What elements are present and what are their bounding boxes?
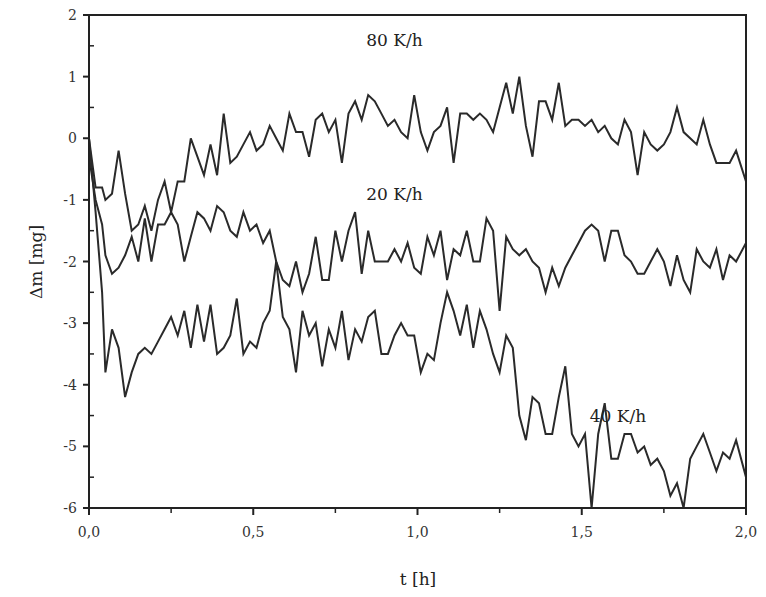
y-tick-label: -2 bbox=[63, 254, 77, 270]
x-axis-title: t [h] bbox=[400, 569, 436, 589]
y-tick-label: 1 bbox=[68, 69, 77, 85]
y-tick-label: -6 bbox=[63, 500, 77, 516]
y-tick-label: 0 bbox=[68, 130, 77, 146]
y-tick-label: -5 bbox=[63, 438, 77, 454]
series-label: 20 K/h bbox=[366, 184, 422, 204]
series-layer: 80 K/h20 K/h40 K/h bbox=[89, 30, 746, 508]
x-tick-label: 0,5 bbox=[242, 524, 264, 540]
axes-layer: 210-1-2-3-4-5-60,00,51,01,52,0 bbox=[63, 7, 757, 540]
y-tick-label: -4 bbox=[63, 377, 77, 393]
series-line-80-k-h bbox=[89, 77, 746, 231]
y-axis-title: Δm [mg] bbox=[26, 225, 46, 299]
x-tick-label: 1,5 bbox=[571, 524, 593, 540]
y-tick-label: -3 bbox=[63, 315, 77, 331]
series-label: 40 K/h bbox=[590, 406, 646, 426]
chart: 80 K/h20 K/h40 K/h 210-1-2-3-4-5-60,00,5… bbox=[0, 0, 766, 597]
x-tick-label: 0,0 bbox=[78, 524, 100, 540]
y-tick-label: 2 bbox=[68, 7, 77, 23]
y-tick-label: -1 bbox=[63, 192, 77, 208]
series-line-20-k-h bbox=[89, 157, 746, 311]
plot-frame bbox=[89, 15, 746, 508]
x-tick-label: 2,0 bbox=[735, 524, 757, 540]
series-label: 80 K/h bbox=[366, 30, 422, 50]
x-tick-label: 1,0 bbox=[406, 524, 428, 540]
